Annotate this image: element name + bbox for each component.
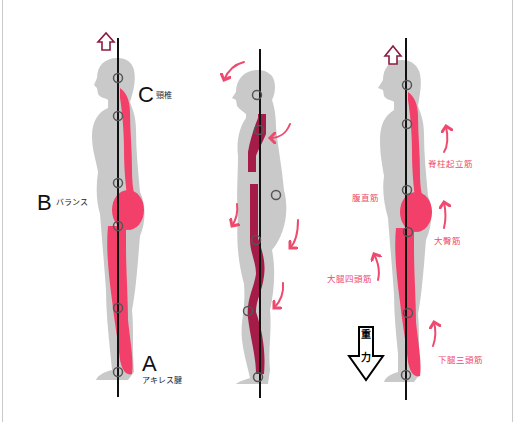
gravity-label-2: 力 [361,353,371,363]
gravity-label-1: 重 [361,330,371,340]
figure-antigravity-muscles [349,38,447,400]
muscle-glute [400,192,432,232]
label-triceps-surae: 下腿三頭筋 [438,356,483,365]
figure-good-posture [92,33,145,397]
label-gluteus-maximus: 大臀筋 [434,237,461,246]
label-quadriceps: 大腿四頭筋 [327,275,372,284]
label-rectus-abdominis: 腹直筋 [352,194,379,203]
figure-bad-posture [224,49,298,398]
label-erector-spinae: 脊柱起立筋 [428,160,473,169]
label-b-letter: B [37,192,52,214]
label-balance: バランス [56,199,88,207]
label-c-letter: C [138,84,154,106]
label-achilles: アキレス腱 [142,377,182,385]
muscle-glute [112,190,144,230]
label-a-letter: A [142,353,157,375]
up-arrow-icon [98,33,114,50]
label-cervical: 頸椎 [156,92,172,100]
